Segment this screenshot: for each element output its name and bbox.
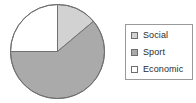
legend-swatch-sport [131, 49, 138, 56]
legend-label-economic: Economic [143, 65, 183, 74]
legend-label-social: Social [143, 31, 168, 40]
legend-swatch-economic [131, 66, 138, 73]
legend-label-sport: Sport [143, 48, 165, 57]
pie-chart-figure: Social Sport Economic [0, 0, 196, 103]
pie-slice-economic[interactable] [11, 5, 58, 52]
pie-plot-area [8, 2, 108, 102]
chart-legend: Social Sport Economic [125, 24, 193, 80]
legend-item-sport[interactable]: Sport [131, 44, 192, 61]
legend-swatch-social [131, 32, 138, 39]
legend-item-economic[interactable]: Economic [131, 61, 192, 78]
pie-svg [8, 2, 108, 102]
legend-item-social[interactable]: Social [131, 27, 192, 44]
